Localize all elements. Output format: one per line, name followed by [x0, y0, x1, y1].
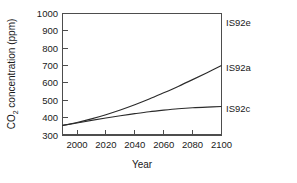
chart-figure: 1000 900 800 700 600 500 400 300 2000 20…: [0, 0, 297, 183]
svg-text:CO2 concentration (ppm): CO2 concentration (ppm): [6, 19, 19, 130]
series-curve-is92c: [63, 107, 222, 126]
y-axis-tick-labels: 1000 900 800 700 600 500 400 300: [37, 8, 58, 141]
y-axis-title-pre: CO: [6, 114, 17, 129]
co2-projection-line-chart: 1000 900 800 700 600 500 400 300 2000 20…: [0, 0, 297, 183]
x-axis-title: Year: [132, 159, 153, 170]
y-tick-label: 900: [42, 25, 58, 36]
series-label-is92c: IS92c: [226, 103, 251, 114]
y-tick-label: 700: [42, 60, 58, 71]
plot-frame: [63, 14, 222, 136]
y-tick-label: 800: [42, 43, 58, 54]
y-tick-label: 1000: [37, 8, 58, 19]
series-label-is92e: IS92e: [226, 17, 251, 28]
y-axis-ticks: [63, 14, 68, 136]
y-axis-title-post: concentration (ppm): [6, 19, 17, 111]
y-tick-label: 400: [42, 112, 58, 123]
series-label-is92a: IS92a: [226, 62, 252, 73]
x-tick-label: 2040: [124, 139, 145, 150]
x-tick-label: 2080: [182, 139, 203, 150]
x-tick-label: 2060: [153, 139, 174, 150]
y-tick-label: 500: [42, 95, 58, 106]
y-tick-label: 300: [42, 130, 58, 141]
y-tick-label: 600: [42, 77, 58, 88]
x-tick-label: 2020: [95, 139, 116, 150]
x-tick-label: 2100: [211, 139, 232, 150]
x-axis-tick-labels: 2000 2020 2040 2060 2080 2100: [66, 139, 232, 150]
x-tick-label: 2000: [66, 139, 87, 150]
series-curve-is92a: [63, 66, 222, 126]
x-axis-ticks: [77, 130, 222, 135]
series-curves: [63, 66, 222, 126]
y-axis-title: CO2 concentration (ppm): [6, 19, 19, 130]
